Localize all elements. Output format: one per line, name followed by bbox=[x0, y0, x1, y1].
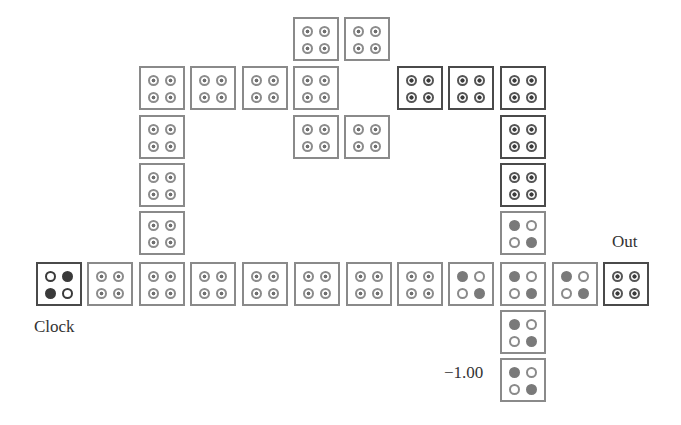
quantum-dot-neutral-icon bbox=[353, 43, 364, 54]
quantum-dot-neutral-icon bbox=[423, 271, 434, 282]
quantum-dot-neutral-icon bbox=[406, 271, 417, 282]
quantum-dot-neutral-icon bbox=[370, 141, 381, 152]
qca-cell bbox=[344, 17, 390, 61]
quantum-dot-open-icon bbox=[457, 288, 468, 299]
quantum-dot-neutral-icon bbox=[319, 75, 330, 86]
quantum-dot-neutral-icon bbox=[113, 271, 124, 282]
qca-cell bbox=[139, 66, 185, 110]
quantum-dot-neutral-icon bbox=[526, 124, 537, 135]
quantum-dot-neutral-icon bbox=[319, 43, 330, 54]
fixed-polarization-label: −1.00 bbox=[444, 364, 483, 381]
quantum-dot-filled-icon bbox=[561, 271, 572, 282]
quantum-dot-neutral-icon bbox=[165, 92, 176, 103]
qca-cell bbox=[448, 66, 494, 110]
fixed-cell bbox=[500, 358, 546, 402]
quantum-dot-filled-icon bbox=[526, 336, 537, 347]
quantum-dot-filled-icon bbox=[509, 367, 520, 378]
quantum-dot-neutral-icon bbox=[165, 124, 176, 135]
quantum-dot-neutral-icon bbox=[148, 141, 159, 152]
quantum-dot-neutral-icon bbox=[96, 288, 107, 299]
qca-cell bbox=[139, 262, 185, 306]
qca-cell bbox=[139, 163, 185, 207]
quantum-dot-neutral-icon bbox=[199, 288, 210, 299]
qca-circuit-diagram: Clock Out −1.00 bbox=[0, 0, 681, 425]
quantum-dot-neutral-icon bbox=[148, 172, 159, 183]
qca-cell bbox=[500, 115, 546, 159]
qca-cell bbox=[397, 66, 443, 110]
quantum-dot-neutral-icon bbox=[509, 92, 520, 103]
qca-cell bbox=[344, 115, 390, 159]
qca-cell bbox=[139, 115, 185, 159]
quantum-dot-neutral-icon bbox=[148, 288, 159, 299]
quantum-dot-filled-icon bbox=[457, 271, 468, 282]
quantum-dot-neutral-icon bbox=[165, 172, 176, 183]
quantum-dot-neutral-icon bbox=[406, 75, 417, 86]
quantum-dot-neutral-icon bbox=[251, 75, 262, 86]
qca-cell bbox=[500, 310, 546, 354]
quantum-dot-open-icon bbox=[578, 271, 589, 282]
quantum-dot-neutral-icon bbox=[216, 75, 227, 86]
quantum-dot-neutral-icon bbox=[526, 75, 537, 86]
quantum-dot-neutral-icon bbox=[474, 92, 485, 103]
quantum-dot-filled-icon bbox=[526, 288, 537, 299]
quantum-dot-neutral-icon bbox=[406, 288, 417, 299]
quantum-dot-open-icon bbox=[509, 384, 520, 395]
qca-cell bbox=[397, 262, 443, 306]
quantum-dot-neutral-icon bbox=[370, 124, 381, 135]
quantum-dot-open-icon bbox=[526, 319, 537, 330]
quantum-dot-neutral-icon bbox=[423, 288, 434, 299]
quantum-dot-neutral-icon bbox=[370, 26, 381, 37]
quantum-dot-open-icon bbox=[526, 220, 537, 231]
quantum-dot-neutral-icon bbox=[319, 26, 330, 37]
quantum-dot-neutral-icon bbox=[251, 288, 262, 299]
quantum-dot-neutral-icon bbox=[268, 92, 279, 103]
qca-cell bbox=[552, 262, 598, 306]
quantum-dot-open-icon bbox=[509, 288, 520, 299]
quantum-dot-open-icon bbox=[526, 367, 537, 378]
quantum-dot-neutral-icon bbox=[302, 141, 313, 152]
quantum-dot-neutral-icon bbox=[370, 43, 381, 54]
quantum-dot-neutral-icon bbox=[148, 237, 159, 248]
quantum-dot-neutral-icon bbox=[113, 288, 124, 299]
quantum-dot-neutral-icon bbox=[165, 220, 176, 231]
quantum-dot-neutral-icon bbox=[148, 220, 159, 231]
quantum-dot-neutral-icon bbox=[268, 75, 279, 86]
quantum-dot-neutral-icon bbox=[268, 288, 279, 299]
out-cell bbox=[603, 262, 649, 306]
qca-cell bbox=[500, 66, 546, 110]
quantum-dot-neutral-icon bbox=[612, 271, 623, 282]
qca-cell bbox=[500, 211, 546, 255]
quantum-dot-neutral-icon bbox=[612, 288, 623, 299]
quantum-dot-neutral-icon bbox=[199, 92, 210, 103]
qca-cell bbox=[294, 262, 340, 306]
quantum-dot-neutral-icon bbox=[355, 271, 366, 282]
quantum-dot-neutral-icon bbox=[319, 124, 330, 135]
qca-cell bbox=[448, 262, 494, 306]
quantum-dot-filled-icon bbox=[509, 319, 520, 330]
quantum-dot-neutral-icon bbox=[251, 92, 262, 103]
quantum-dot-neutral-icon bbox=[406, 92, 417, 103]
quantum-dot-open-icon bbox=[526, 271, 537, 282]
quantum-dot-neutral-icon bbox=[355, 288, 366, 299]
quantum-dot-open-icon bbox=[561, 288, 572, 299]
qca-cell bbox=[293, 66, 339, 110]
quantum-dot-neutral-icon bbox=[509, 141, 520, 152]
qca-cell bbox=[190, 66, 236, 110]
quantum-dot-neutral-icon bbox=[509, 75, 520, 86]
quantum-dot-neutral-icon bbox=[302, 75, 313, 86]
qca-cell bbox=[242, 262, 288, 306]
quantum-dot-neutral-icon bbox=[526, 141, 537, 152]
quantum-dot-neutral-icon bbox=[199, 271, 210, 282]
quantum-dot-open-icon bbox=[509, 237, 520, 248]
quantum-dot-neutral-icon bbox=[216, 92, 227, 103]
quantum-dot-neutral-icon bbox=[148, 271, 159, 282]
quantum-dot-neutral-icon bbox=[457, 92, 468, 103]
qca-cell bbox=[500, 163, 546, 207]
quantum-dot-open-icon bbox=[474, 271, 485, 282]
quantum-dot-neutral-icon bbox=[268, 271, 279, 282]
quantum-dot-neutral-icon bbox=[165, 75, 176, 86]
quantum-dot-filled-icon bbox=[578, 288, 589, 299]
quantum-dot-neutral-icon bbox=[302, 26, 313, 37]
quantum-dot-neutral-icon bbox=[509, 124, 520, 135]
output-label: Out bbox=[612, 233, 638, 250]
